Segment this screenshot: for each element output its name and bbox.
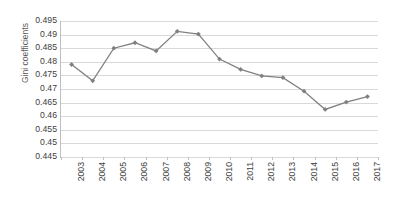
y-axis-tick-label: 0.49	[7, 30, 57, 39]
x-axis-tick-label: 2015	[330, 162, 340, 181]
x-axis-tick-label: 2010	[224, 162, 234, 181]
y-axis-tick-label: 0.495	[7, 16, 57, 25]
y-axis-tick-label: 0.47	[7, 84, 57, 93]
y-axis-tick-label: 0.485	[7, 43, 57, 52]
x-axis-tick-label: 2012	[266, 162, 276, 181]
data-point-marker	[344, 100, 349, 105]
y-axis-tick-labels: 0.4950.490.4850.480.4750.470.4650.460.45…	[3, 21, 57, 157]
x-axis-tick-label: 2005	[118, 162, 128, 181]
x-axis-tick-label: 2014	[309, 162, 319, 181]
y-axis-tick-label: 0.45	[7, 138, 57, 147]
y-axis-tick-label: 0.455	[7, 125, 57, 134]
x-axis-tick-labels: 2003200420052006200720082009201020112012…	[61, 160, 378, 218]
series-gini-coefficients	[61, 21, 378, 157]
data-point-marker	[259, 74, 264, 79]
x-axis-tick-label: 2007	[161, 162, 171, 181]
y-axis-tick-label: 0.46	[7, 111, 57, 120]
x-axis-tick-label: 2008	[182, 162, 192, 181]
y-axis-tick-label: 0.475	[7, 70, 57, 79]
y-axis-tick-label: 0.445	[7, 152, 57, 161]
x-axis-tick-label: 2006	[139, 162, 149, 181]
x-axis-tick-label: 2003	[76, 162, 86, 181]
y-axis-tick-label: 0.48	[7, 57, 57, 66]
x-axis-tick-mark	[378, 157, 379, 160]
data-point-marker	[238, 67, 243, 72]
series-line	[72, 31, 368, 109]
x-axis-tick-label: 2013	[287, 162, 297, 181]
x-axis-tick-label: 2011	[245, 162, 255, 181]
gini-coefficients-line-chart: Gini coefficients 0.4950.490.4850.480.47…	[0, 0, 397, 221]
x-axis-tick-label: 2009	[203, 162, 213, 181]
data-point-marker	[133, 40, 138, 45]
x-axis-tick-label: 2004	[97, 162, 107, 181]
data-point-marker	[365, 94, 370, 99]
y-axis-tick-label: 0.465	[7, 98, 57, 107]
x-axis-tick-label: 2016	[351, 162, 361, 181]
x-axis-tick-label: 2017	[372, 162, 382, 181]
